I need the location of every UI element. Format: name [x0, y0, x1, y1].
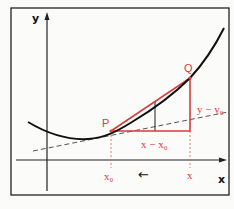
x0-label: x₀ [104, 170, 114, 182]
dy-label: y − y₀ [197, 103, 224, 115]
point-q-label: Q [184, 62, 193, 74]
direction-arrow-icon: ← [138, 167, 149, 182]
diagram-frame [11, 8, 229, 195]
x-label: x [187, 169, 193, 181]
point-q-marker [188, 76, 191, 79]
point-p-label: P [102, 117, 109, 129]
point-p-marker [109, 129, 112, 132]
dx-label: x − x₀ [141, 138, 168, 150]
y-axis-label: y [32, 12, 39, 25]
x-axis-label: x [218, 173, 225, 186]
diagram-canvas: y x P Q y − y₀ x − x₀ x₀ x ← [0, 0, 234, 209]
